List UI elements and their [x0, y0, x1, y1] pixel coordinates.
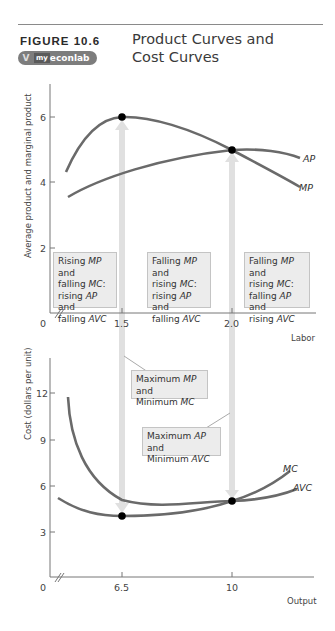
- leader-line-ap-avc: [206, 413, 230, 428]
- top-y-label-4: 4: [40, 177, 46, 188]
- callout-text: Maximum: [136, 374, 183, 384]
- arrow-down-head-left: [115, 503, 129, 513]
- box-text-italic: AVC: [88, 314, 106, 324]
- box-text: falling: [58, 314, 88, 324]
- callout-text: and: [136, 386, 153, 396]
- box-text: and: [152, 302, 169, 312]
- callout-max-ap-min-avc: Maximum AP and Minimum AVC: [142, 427, 221, 456]
- top-origin-label: 0: [40, 318, 46, 329]
- box-text: falling: [152, 314, 182, 324]
- callout-text: Maximum: [147, 431, 194, 441]
- top-y-axis-title: Average product and marginal product: [23, 93, 33, 258]
- annotation-box-1: Rising MP and falling MC: rising AP and …: [53, 252, 117, 308]
- bottom-x-label-10: 10: [226, 582, 238, 593]
- callout-max-mp-min-mc: Maximum MP and Minimum MC: [131, 370, 208, 399]
- box-text: :: [194, 279, 197, 289]
- bottom-y-axis-title: Cost (dollars per unit): [23, 347, 33, 440]
- top-x-label-1-5: 1.5: [114, 318, 129, 329]
- box-text: rising: [249, 314, 277, 324]
- top-x-label-2-0: 2.0: [224, 318, 239, 329]
- box-text-italic: AP: [180, 291, 192, 301]
- arrow-shaft-left: [119, 126, 125, 506]
- box-text: rising: [152, 291, 180, 301]
- ap-curve: [68, 149, 300, 197]
- callout-text: Minimum: [136, 397, 181, 407]
- bottom-x-axis-title: Output: [287, 596, 317, 606]
- callout-text: Minimum: [147, 454, 192, 464]
- callout-text-italic: MC: [181, 397, 195, 407]
- top-x-axis-title: Labor: [291, 333, 316, 343]
- box-text: and: [249, 268, 266, 278]
- box-text: Falling: [249, 256, 281, 266]
- callout-text-italic: AP: [194, 431, 206, 441]
- mp-curve: [66, 117, 300, 187]
- box-text-italic: MP: [88, 256, 101, 266]
- box-text: and: [249, 302, 266, 312]
- box-text: and: [58, 302, 75, 312]
- top-y-label-2: 2: [40, 243, 46, 254]
- box-text: Falling: [152, 256, 184, 266]
- box-text-italic: MC: [180, 279, 194, 289]
- min-avc-point: [228, 497, 236, 505]
- box-text-italic: AP: [86, 291, 98, 301]
- arrow-up-head-left: [115, 120, 129, 130]
- ap-curve-label: AP: [302, 153, 315, 164]
- annotation-box-3: Falling MP and rising MC: falling AP and…: [244, 252, 310, 308]
- box-text: and: [58, 268, 75, 278]
- mc-curve: [58, 471, 290, 516]
- box-text-italic: MC: [277, 279, 291, 289]
- max-ap-point: [228, 146, 236, 154]
- mp-curve-label: MP: [299, 182, 313, 193]
- box-text: :: [103, 279, 106, 289]
- box-text-italic: AP: [279, 291, 291, 301]
- bottom-y-label-6: 6: [40, 481, 46, 492]
- callout-text-italic: MP: [183, 374, 196, 384]
- top-y-label-6: 6: [40, 112, 46, 123]
- box-text-italic: AVC: [277, 314, 295, 324]
- box-text: :: [291, 279, 294, 289]
- box-text: rising: [249, 279, 277, 289]
- callout-text: and: [147, 443, 164, 453]
- min-mc-point: [118, 512, 126, 520]
- box-text: falling: [249, 291, 279, 301]
- callout-text-italic: AVC: [192, 454, 210, 464]
- box-text: Rising: [58, 256, 88, 266]
- bottom-y-label-12: 12: [36, 388, 48, 399]
- mc-curve-label: MC: [283, 463, 298, 474]
- box-text-italic: MP: [281, 256, 294, 266]
- avc-curve-label: AVC: [292, 482, 313, 493]
- box-text: rising: [58, 291, 86, 301]
- box-text-italic: MC: [88, 279, 102, 289]
- bottom-y-label-9: 9: [40, 435, 46, 446]
- box-text: falling: [58, 279, 88, 289]
- bottom-y-label-3: 3: [40, 527, 46, 538]
- max-mp-point: [118, 113, 126, 121]
- bottom-x-label-6-5: 6.5: [114, 582, 129, 593]
- box-text: and: [152, 268, 169, 278]
- annotation-box-2: Falling MP and rising MC: rising AP and …: [147, 252, 211, 308]
- box-text: rising: [152, 279, 180, 289]
- bottom-origin-label: 0: [40, 582, 46, 593]
- box-text-italic: AVC: [182, 314, 200, 324]
- box-text-italic: MP: [184, 256, 197, 266]
